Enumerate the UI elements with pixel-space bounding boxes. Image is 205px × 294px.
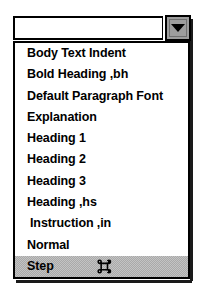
list-item-label: Heading 3 bbox=[27, 174, 86, 188]
list-item-label: Normal bbox=[27, 238, 69, 252]
style-dropdown-list[interactable]: Body Text IndentBold Heading ,bhDefault … bbox=[13, 41, 190, 279]
list-item[interactable]: Heading 3 bbox=[15, 171, 188, 192]
list-item-label: Explanation bbox=[27, 110, 97, 124]
drop-shadow-bottom bbox=[16, 280, 192, 283]
list-item[interactable]: Heading 2 bbox=[15, 149, 188, 170]
list-item-label: Heading ,hs bbox=[27, 195, 97, 209]
dropdown-toggle-button[interactable] bbox=[165, 15, 191, 41]
list-item[interactable]: Heading ,hs bbox=[15, 192, 188, 213]
list-item-label: Bold Heading ,bh bbox=[27, 67, 128, 81]
combo-box[interactable] bbox=[13, 16, 191, 41]
list-item-label: Instruction ,in bbox=[30, 216, 111, 230]
list-item-label: Heading 1 bbox=[27, 131, 86, 145]
style-name-input[interactable] bbox=[13, 16, 163, 40]
list-item[interactable]: Heading 1 bbox=[15, 128, 188, 149]
list-item[interactable]: Bold Heading ,bh bbox=[15, 64, 188, 85]
triangle-down-icon bbox=[171, 24, 185, 32]
list-item[interactable]: Explanation bbox=[15, 107, 188, 128]
list-item[interactable]: Default Paragraph Font bbox=[15, 86, 188, 107]
screen-root: Body Text IndentBold Heading ,bhDefault … bbox=[0, 0, 205, 294]
drop-shadow-right bbox=[190, 19, 193, 281]
list-item[interactable]: Body Text Indent bbox=[15, 43, 188, 64]
list-item-label: Heading 2 bbox=[27, 152, 86, 166]
list-item[interactable]: Instruction ,in bbox=[15, 213, 188, 234]
list-item-label: Step bbox=[27, 259, 54, 273]
style-name-input-value bbox=[15, 18, 162, 21]
command-key-icon bbox=[93, 257, 112, 276]
list-item-label: Default Paragraph Font bbox=[27, 89, 163, 103]
list-item[interactable]: Normal bbox=[15, 235, 188, 256]
list-item-label: Body Text Indent bbox=[27, 46, 126, 60]
list-item[interactable]: Step bbox=[15, 256, 188, 277]
